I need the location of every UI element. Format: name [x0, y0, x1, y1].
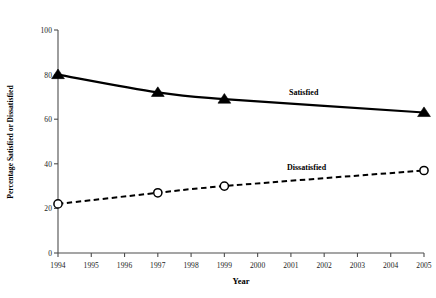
series-label-dissatisfied: Dissatisfied — [287, 163, 326, 172]
marker-circle — [420, 166, 428, 174]
y-tick-label: 40 — [24, 159, 52, 168]
x-tick-label: 1999 — [217, 261, 232, 270]
axis-layer — [58, 30, 424, 253]
x-tick-label: 1997 — [150, 261, 165, 270]
marker-circle — [154, 189, 162, 197]
x-tick-label: 2004 — [383, 261, 398, 270]
series-dissatisfied — [54, 166, 428, 208]
x-tick-label: 2003 — [350, 261, 365, 270]
y-tick-label: 80 — [24, 70, 52, 79]
series-satisfied — [52, 69, 431, 117]
y-tick-label: 20 — [24, 204, 52, 213]
series-line-satisfied — [58, 75, 424, 113]
chart-figure: 100806040200 199419951996199719981999200… — [0, 0, 436, 298]
tick-marks-layer — [54, 30, 424, 257]
line-chart-canvas — [0, 0, 436, 298]
series-label-satisfied: Satisfied — [289, 88, 318, 97]
x-tick-label: 1998 — [183, 261, 198, 270]
y-tick-label: 60 — [24, 115, 52, 124]
x-tick-label: 2002 — [316, 261, 331, 270]
y-tick-label: 100 — [24, 26, 52, 35]
series-line-dissatisfied — [58, 170, 424, 203]
marker-triangle — [52, 69, 65, 79]
x-axis-title: Year — [233, 276, 250, 286]
x-tick-label: 1996 — [117, 261, 132, 270]
x-tick-label: 1995 — [84, 261, 99, 270]
data-series-layer — [52, 69, 431, 208]
marker-circle — [54, 200, 62, 208]
x-tick-label: 1994 — [50, 261, 65, 270]
x-tick-label: 2005 — [416, 261, 431, 270]
x-tick-label: 2001 — [283, 261, 298, 270]
marker-circle — [220, 182, 228, 190]
y-tick-label: 0 — [24, 249, 52, 258]
x-tick-label: 2000 — [250, 261, 265, 270]
y-axis-title: Percentage Satisfied or Dissatisfied — [6, 85, 15, 198]
